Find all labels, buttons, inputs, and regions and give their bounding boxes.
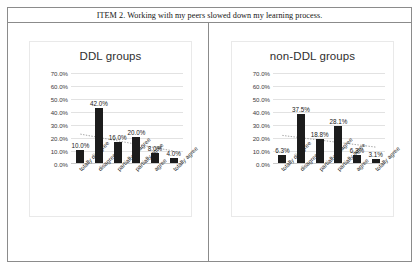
y-axis-tick-non-ddl: 20.0% (253, 135, 270, 142)
bar-non-ddl (297, 114, 305, 163)
y-axis-tick-ddl: 70.0% (51, 70, 68, 77)
bar-value-label-ddl: 42.0% (90, 100, 108, 107)
table-cell-non-ddl: non-DDL groups 0.0%10.0%20.0%30.0%40.0%5… (209, 23, 411, 261)
bar-value-label-non-ddl: 6.3% (350, 147, 364, 154)
gridline (71, 99, 183, 100)
table-header-row: ITEM 2. Working with my peers slowed dow… (8, 8, 411, 23)
y-axis-tick-ddl: 40.0% (51, 109, 68, 116)
plot-area-ddl: 0.0%10.0%20.0%30.0%40.0%50.0%60.0%70.0%1… (71, 73, 183, 164)
gridline (71, 125, 183, 126)
bar-value-label-non-ddl: 18.8% (311, 131, 329, 138)
y-axis-tick-non-ddl: 40.0% (253, 109, 270, 116)
table-body-row: DDL groups 0.0%10.0%20.0%30.0%40.0%50.0%… (8, 23, 411, 261)
plot-area-non-ddl: 0.0%10.0%20.0%30.0%40.0%50.0%60.0%70.0%6… (273, 73, 385, 164)
item-table: ITEM 2. Working with my peers slowed dow… (7, 7, 412, 262)
gridline (273, 112, 385, 113)
gridline (273, 86, 385, 87)
bar-value-label-ddl: 20.0% (127, 129, 145, 136)
table-cell-ddl: DDL groups 0.0%10.0%20.0%30.0%40.0%50.0%… (8, 23, 209, 261)
bar-ddl (114, 142, 122, 163)
chart-ddl-groups: DDL groups 0.0%10.0%20.0%30.0%40.0%50.0%… (29, 41, 192, 217)
bar-value-label-ddl: 4.0% (166, 150, 180, 157)
y-axis-tick-non-ddl: 0.0% (256, 161, 270, 168)
bar-value-label-non-ddl: 37.5% (292, 106, 310, 113)
bar-ddl (132, 137, 140, 163)
bar-value-label-non-ddl: 6.3% (275, 147, 289, 154)
y-axis-tick-ddl: 60.0% (51, 83, 68, 90)
y-axis-tick-ddl: 0.0% (54, 161, 68, 168)
page-root: ITEM 2. Working with my peers slowed dow… (0, 0, 420, 270)
gridline (71, 73, 183, 74)
gridline (71, 138, 183, 139)
y-axis-tick-ddl: 10.0% (51, 148, 68, 155)
y-axis-tick-non-ddl: 10.0% (253, 148, 270, 155)
y-axis-tick-non-ddl: 30.0% (253, 122, 270, 129)
y-axis-tick-ddl: 20.0% (51, 135, 68, 142)
y-axis-tick-non-ddl: 70.0% (253, 70, 270, 77)
gridline (273, 73, 385, 74)
item-statement: ITEM 2. Working with my peers slowed dow… (97, 11, 323, 20)
bar-value-label-non-ddl: 3.1% (368, 151, 382, 158)
bar-value-label-non-ddl: 28.1% (329, 118, 347, 125)
bar-ddl (95, 108, 103, 163)
gridline (273, 99, 385, 100)
bar-value-label-ddl: 10.0% (71, 142, 89, 149)
bar-value-label-ddl: 8.0% (148, 145, 162, 152)
y-axis-tick-non-ddl: 50.0% (253, 96, 270, 103)
y-axis-tick-ddl: 50.0% (51, 96, 68, 103)
chart-non-ddl-groups: non-DDL groups 0.0%10.0%20.0%30.0%40.0%5… (231, 41, 394, 217)
chart-title-ddl: DDL groups (30, 50, 191, 62)
bar-value-label-ddl: 16.0% (109, 134, 127, 141)
gridline (273, 138, 385, 139)
y-axis-tick-non-ddl: 60.0% (253, 83, 270, 90)
chart-title-non-ddl: non-DDL groups (232, 50, 393, 62)
gridline (71, 112, 183, 113)
y-axis-tick-ddl: 30.0% (51, 122, 68, 129)
bar-non-ddl (316, 139, 324, 163)
bar-non-ddl (334, 126, 342, 163)
gridline (71, 86, 183, 87)
